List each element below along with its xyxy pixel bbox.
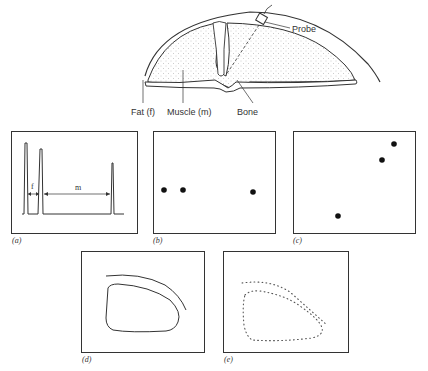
echo-dot xyxy=(161,187,167,193)
panel-a: f m (a) xyxy=(12,132,138,246)
bone-label: Bone xyxy=(237,107,258,117)
panel-b-label: (b) xyxy=(153,236,163,245)
muscle-span-label: m xyxy=(75,183,82,192)
muscle-dotted-outline xyxy=(243,291,322,341)
panel-e-label: (e) xyxy=(224,355,233,364)
fat-span-label: f xyxy=(31,182,34,191)
panel-b: (b) xyxy=(153,132,276,246)
echo-dot xyxy=(250,189,256,195)
panel-d: (d) xyxy=(82,252,205,365)
panel-a-label: (a) xyxy=(12,236,22,245)
a-scan-trace xyxy=(22,143,124,214)
panel-c: (c) xyxy=(293,132,416,246)
fat-label: Fat (f) xyxy=(131,107,155,117)
echo-dot xyxy=(180,187,186,193)
panel-c-label: (c) xyxy=(293,236,302,245)
panel-e: (e) xyxy=(224,252,349,365)
echo-dot xyxy=(391,141,397,147)
panel-d-label: (d) xyxy=(82,355,92,364)
echo-dot xyxy=(335,213,341,219)
carcass-cross-section: Probe Fat (f) Muscle (m) Bone xyxy=(131,5,380,117)
muscle-label: Muscle (m) xyxy=(167,107,212,117)
muscle-outline xyxy=(106,284,179,332)
echo-dot xyxy=(379,157,385,163)
ultrasound-diagram: Probe Fat (f) Muscle (m) Bone f m (a) (b… xyxy=(0,0,428,371)
probe-label: Probe xyxy=(292,24,316,34)
fat-dotted-outline xyxy=(242,282,327,325)
